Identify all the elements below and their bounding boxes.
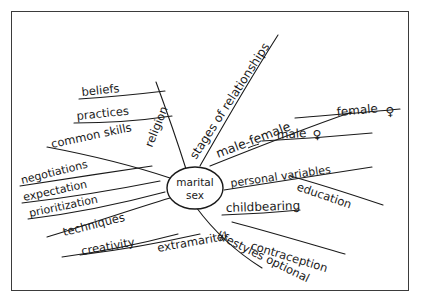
center-node-label-line2: sex [186,189,204,201]
mind-map-drawing: marital sex religion beliefs practices c… [0,0,422,305]
branch-label-common-skills: common skills [50,120,133,151]
branch-label-childbearing: childbearing [226,198,301,215]
branch-label-creativity: creativity [80,235,136,258]
branch-label-techniques: techniques [61,210,126,239]
branch-label-female: female [336,101,378,119]
female-symbol-icon: ♀ [385,104,395,119]
center-node-label-line1: marital [176,176,213,188]
branch-label-male: male [276,126,307,142]
center-node-circle [167,167,223,209]
mind-map-canvas: marital sex religion beliefs practices c… [0,0,422,305]
male-symbol-icon: ♀ [312,127,322,142]
branch-label-education: education [295,180,354,212]
branch-label-practices: practices [76,104,130,123]
branch-label-religion: religion [142,104,171,149]
